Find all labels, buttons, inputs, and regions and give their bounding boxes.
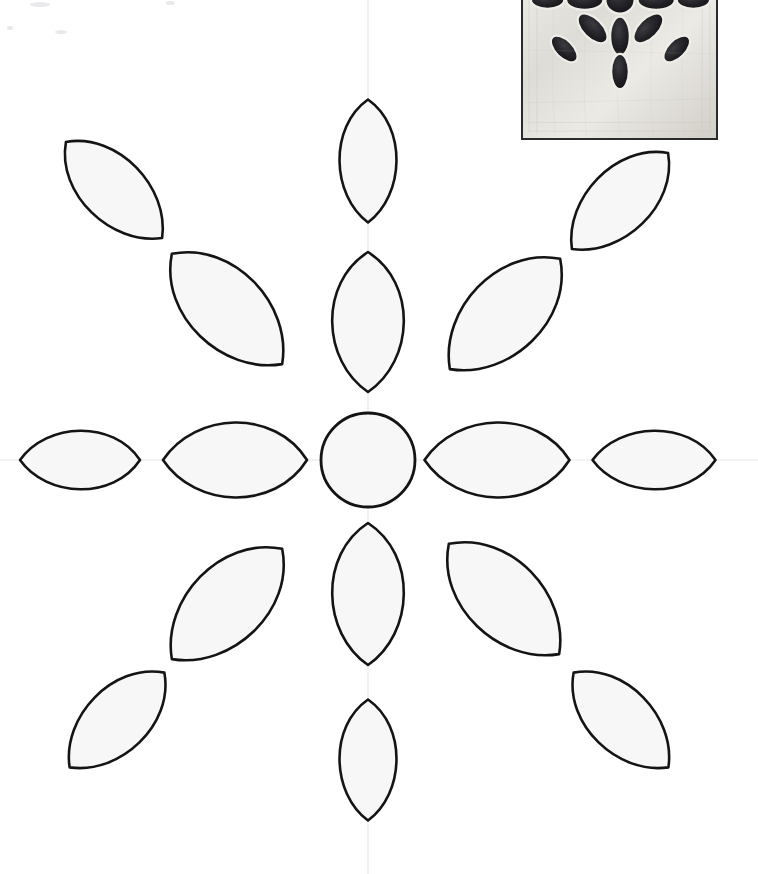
- petal-outer-lower-right: [551, 650, 691, 790]
- petal-inner-top: [332, 252, 404, 392]
- pattern-page: [0, 0, 758, 874]
- petal-inner-bottom: [332, 523, 404, 665]
- petal-inner-lower-right: [422, 517, 586, 681]
- center-circle-shape: [321, 413, 415, 507]
- petal-outer-upper-right: [549, 130, 690, 271]
- petal-outer-right: [593, 431, 716, 490]
- petal-inner-lower-left: [145, 522, 309, 686]
- finished-block-photo-image: [523, 0, 716, 138]
- finished-block-photo: [521, 0, 718, 140]
- petal-outer-bottom: [340, 700, 397, 821]
- petal-outer-upper-left: [43, 119, 184, 260]
- petal-inner-right: [425, 423, 570, 498]
- petal-inner-upper-right: [423, 232, 587, 396]
- petal-outer-left: [20, 431, 140, 490]
- petal-outer-top: [340, 100, 397, 223]
- petal-inner-left: [163, 423, 307, 498]
- petal-inner-upper-left: [145, 227, 309, 391]
- petal-outer-lower-left: [47, 650, 187, 790]
